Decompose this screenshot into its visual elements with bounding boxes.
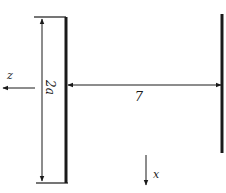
z-axis-label: z <box>6 69 13 82</box>
aperture-width-label: 2a <box>43 79 57 95</box>
separation-label: 7 <box>135 89 144 104</box>
x-axis-label: x <box>153 168 160 181</box>
diagram: 2a 7 z x <box>0 0 226 193</box>
